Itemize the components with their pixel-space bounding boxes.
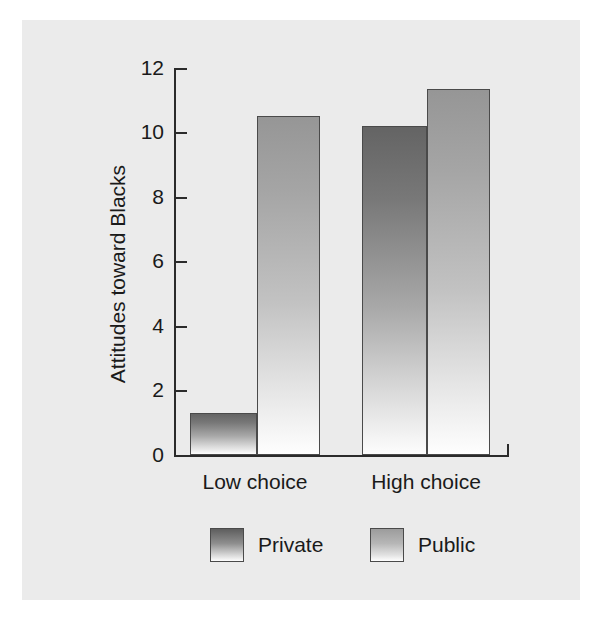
x-category-label-high-choice: High choice	[316, 470, 536, 494]
bar-low-choice-private[interactable]	[190, 413, 257, 455]
bar-low-choice-public[interactable]	[257, 116, 320, 455]
legend-item-private[interactable]: Private	[210, 528, 323, 562]
y-tick-6	[176, 261, 187, 263]
y-axis-title: Attitudes toward Blacks	[106, 139, 130, 409]
y-tick-2	[176, 390, 187, 392]
y-tick-label-6: 6	[124, 250, 164, 271]
y-tick-12	[176, 68, 187, 70]
bar-high-choice-public[interactable]	[427, 89, 490, 455]
x-axis-end-tick	[507, 444, 509, 457]
y-tick-8	[176, 197, 187, 199]
y-tick-10	[176, 132, 187, 134]
legend-label-private: Private	[258, 533, 323, 557]
legend-label-public: Public	[418, 533, 475, 557]
y-tick-4	[176, 326, 187, 328]
y-tick-0	[176, 455, 187, 457]
x-axis-line	[174, 455, 509, 457]
chart-legend: Private Public	[174, 528, 509, 574]
bar-high-choice-private[interactable]	[362, 126, 427, 455]
y-tick-label-4: 4	[124, 315, 164, 336]
y-tick-label-10: 10	[124, 121, 164, 142]
legend-swatch-private-icon	[210, 528, 244, 562]
legend-swatch-public-icon	[370, 528, 404, 562]
bar-chart-plot: Attitudes toward Blacks 0 2 4 6 8 10	[0, 0, 605, 626]
y-tick-label-2: 2	[124, 379, 164, 400]
y-tick-label-12: 12	[124, 57, 164, 78]
y-tick-label-8: 8	[124, 186, 164, 207]
figure: Attitudes toward Blacks 0 2 4 6 8 10	[0, 0, 605, 626]
y-tick-label-0: 0	[124, 444, 164, 465]
legend-item-public[interactable]: Public	[370, 528, 475, 562]
